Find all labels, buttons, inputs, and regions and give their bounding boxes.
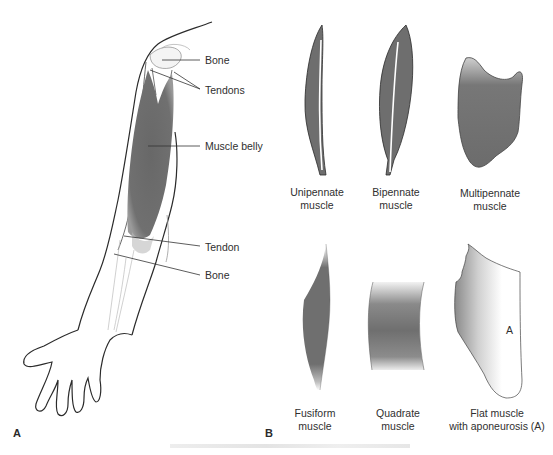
caption-flat-muscle: Flat muscle with aponeurosis (A)	[432, 407, 553, 432]
multipennate-muscle-shape	[458, 58, 523, 168]
quadrate-muscle-shape	[368, 282, 424, 370]
muscle-anatomy-figure: Bone Tendons Muscle belly Tendon Bone A …	[0, 0, 553, 455]
arm-illustration	[24, 22, 212, 416]
label-bone-bottom: Bone	[205, 269, 230, 281]
flat-muscle-shape	[455, 244, 522, 398]
caption-multipennate: Multipennate muscle	[435, 187, 545, 212]
label-tendons: Tendons	[205, 84, 245, 96]
figure-caption-blurred	[170, 444, 410, 448]
bipennate-muscle-shape	[379, 25, 412, 175]
figure-artwork	[0, 0, 553, 455]
label-tendon: Tendon	[205, 241, 239, 253]
aponeurosis-marker: A	[506, 324, 513, 336]
panel-a-letter: A	[13, 427, 21, 439]
label-bone-top: Bone	[205, 54, 230, 66]
unipennate-muscle-shape	[305, 25, 326, 175]
label-muscle-belly: Muscle belly	[205, 140, 263, 152]
fusiform-muscle-shape	[303, 244, 330, 391]
